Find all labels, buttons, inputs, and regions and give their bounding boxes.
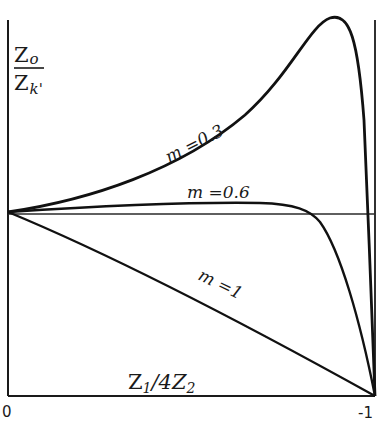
series-m-0.3 <box>8 17 375 396</box>
x-axis-label: Z1/4Z2 <box>128 370 196 396</box>
x-tick-0: 0 <box>2 403 12 421</box>
label-m-1: m =1 <box>195 265 246 303</box>
svg-text:Zo: Zo <box>14 43 39 68</box>
y-axis-label: Zo Zk' <box>14 43 44 98</box>
label-m-0.3: m =0.3 <box>162 120 227 166</box>
series-m-1 <box>8 212 375 396</box>
label-m-0.6: m =0.6 <box>187 182 250 202</box>
svg-text:Zk': Zk' <box>14 71 43 98</box>
chart: Zo Zk' Z1/4Z2 0 -1 m =0.3 m =0.6 m =1 <box>0 0 381 425</box>
x-tick-neg1: -1 <box>358 404 373 422</box>
